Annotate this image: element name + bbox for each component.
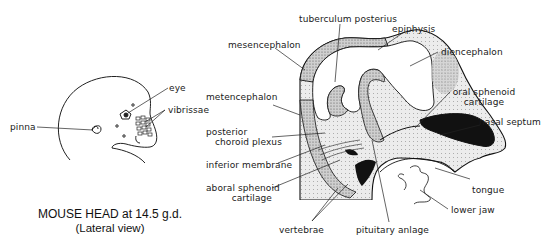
label-tongue: tongue [472,185,504,195]
label-aboral-sphenoid-cartilage: aboral sphenoid cartilage [206,183,272,203]
label-pinna: pinna [10,122,36,132]
figure-subtitle: (Lateral view) [30,221,190,235]
external-leader-lines [37,88,168,130]
label-pituitary-anlage: pituitary anlage [356,225,429,235]
label-eye: eye [169,83,186,93]
label-nasal-septum: nasal septum [479,117,541,127]
label-oral-sphenoid-line1: oral sphenoid [448,87,520,97]
label-posterior-choroid-line2: choroid plexus [206,137,282,147]
label-vertebrae: vertebrae [279,225,324,235]
label-posterior-choroid-line1: posterior [206,127,282,137]
label-metencephalon: metencephalon [206,92,278,102]
label-oral-sphenoid-line2: cartilage [448,97,520,107]
label-tuberculum-posterius: tuberculum posterius [299,14,397,24]
label-lower-jaw: lower jaw [451,205,495,215]
label-aboral-sphenoid-line2: cartilage [206,193,272,203]
figure-title: MOUSE HEAD at 14.5 g.d. [30,207,190,221]
label-vibrissae: vibrissae [168,105,209,115]
mouse-head-outline [58,76,156,163]
label-inferior-membrane: inferior membrane [206,160,292,170]
label-epiphysis: epiphysis [392,24,435,34]
label-mesencephalon: mesencephalon [228,40,301,50]
label-diencephalon: diencephalon [441,47,503,57]
label-oral-sphenoid-cartilage: oral sphenoid cartilage [448,87,520,107]
label-aboral-sphenoid-line1: aboral sphenoid [206,183,272,193]
figure-caption: MOUSE HEAD at 14.5 g.d. (Lateral view) [30,207,190,235]
label-posterior-choroid-plexus: posterior choroid plexus [206,127,282,147]
